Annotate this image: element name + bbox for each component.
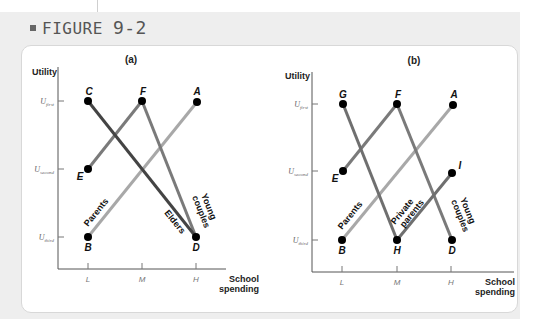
panel-b-label-g: G xyxy=(339,89,347,100)
panel-b-ylabel-second: Usecond xyxy=(288,167,308,177)
panel-a-x-axis-label-2: spending xyxy=(219,284,259,294)
panel-b-point-i xyxy=(448,169,456,177)
panel-a-title: (a) xyxy=(125,54,137,65)
panel-a-label-b: B xyxy=(84,242,91,253)
panel-a-point-f xyxy=(138,97,146,105)
panel-b-xtick-m: M xyxy=(394,278,401,287)
panel-a-label-a: A xyxy=(192,86,200,97)
panel-b-point-d xyxy=(448,236,456,244)
panel-b-point-a xyxy=(449,101,457,109)
panel-b-point-e xyxy=(339,167,347,175)
panel-b-point-g xyxy=(339,100,347,108)
panel-b-label-parents: Parents xyxy=(336,199,365,231)
panel-b-label-d: D xyxy=(448,245,455,256)
panel-b-young-couples-line-1 xyxy=(343,104,397,171)
panel-b-point-f xyxy=(393,100,401,108)
panel-a-xtick-l: L xyxy=(86,275,90,284)
panel-b-label-f: F xyxy=(395,89,402,100)
panel-a-y-axis-label: Utility xyxy=(32,67,57,77)
panel-a-label-e: E xyxy=(77,171,84,182)
panel-b-label-a: A xyxy=(449,89,457,100)
panel-b-y-axis-label: Utility xyxy=(285,71,310,81)
panel-b-x-axis-label-1: School xyxy=(485,277,515,287)
panel-a-ylabel-third: Uthird xyxy=(39,233,55,243)
panel-b-label-i: I xyxy=(459,160,462,171)
panel-a-xtick-h: H xyxy=(193,275,199,284)
panel-b-label-e: E xyxy=(332,173,339,184)
panel-b: (b) Utility Ufirst Usecond Uthird L M H … xyxy=(285,55,515,297)
panel-a-label-f: F xyxy=(140,86,147,97)
panel-b-label-b: B xyxy=(338,245,345,256)
panel-b-point-h xyxy=(393,236,401,244)
panel-a-label-d: D xyxy=(192,242,199,253)
panel-b-point-b xyxy=(338,236,346,244)
panel-b-label-h: H xyxy=(393,245,401,256)
panel-a-ylabel-second: Usecond xyxy=(34,165,54,175)
panel-b-xtick-l: L xyxy=(340,278,344,287)
diagram-svg: (a) Utility Ufirst Usecond Uthird L M H … xyxy=(0,0,551,319)
panel-a-xtick-m: M xyxy=(139,275,146,284)
panel-b-ylabel-first: Ufirst xyxy=(294,100,308,110)
panel-a-label-c: C xyxy=(85,86,93,97)
panel-a-ylabel-first: Ufirst xyxy=(40,97,54,107)
panel-a-point-b xyxy=(84,233,92,241)
panel-b-title: (b) xyxy=(408,55,421,66)
panel-a-x-axis-label-1: School xyxy=(229,274,259,284)
panel-b-ylabel-third: Uthird xyxy=(293,236,309,246)
panel-b-xtick-h: H xyxy=(448,278,454,287)
panel-a-point-a xyxy=(193,98,201,106)
panel-a: (a) Utility Ufirst Usecond Uthird L M H … xyxy=(32,54,259,294)
panel-a-point-e xyxy=(84,165,92,173)
panel-a-point-d xyxy=(192,233,200,241)
panel-a-point-c xyxy=(84,97,92,105)
panel-b-x-axis-label-2: spending xyxy=(475,287,515,297)
